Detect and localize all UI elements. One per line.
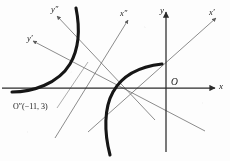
axis-label-y-prime: y′ bbox=[27, 34, 33, 43]
hyperbola-branch-left bbox=[12, 8, 78, 92]
axis-label-x-double-prime: x″ bbox=[120, 9, 127, 18]
hyperbola-branch-right bbox=[106, 64, 162, 155]
axis-label-y: y bbox=[160, 6, 164, 15]
y-prime-axis bbox=[33, 41, 205, 131]
axis-label-y-double-prime: y″ bbox=[51, 5, 58, 14]
axis-label-x-prime: x′ bbox=[209, 8, 215, 17]
origin-label-O: O bbox=[171, 78, 178, 88]
point-label-origin-double-prime: O″(−11, 3) bbox=[13, 103, 48, 111]
origin-double-prime-leader-line bbox=[57, 62, 88, 108]
diagram-vector-layer bbox=[0, 0, 230, 161]
x-double-prime-axis bbox=[55, 20, 128, 138]
figure-canvas: y x O x′ y′ x″ y″ O″(−11, 3) bbox=[0, 0, 230, 161]
axis-label-x: x bbox=[219, 82, 223, 91]
